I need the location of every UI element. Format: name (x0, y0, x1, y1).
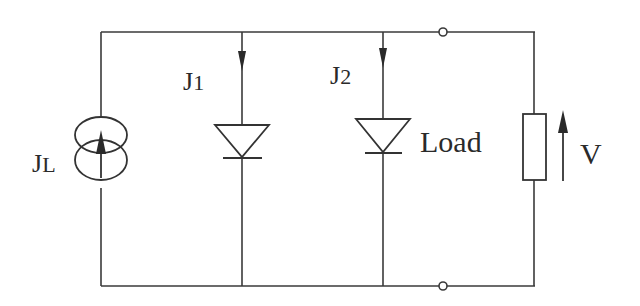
label-j1: J1 (183, 67, 204, 96)
voltage-indicator (558, 110, 568, 181)
diode2-triangle (356, 119, 410, 152)
terminal-top (439, 28, 447, 36)
label-j2: J2 (330, 61, 351, 90)
circuit-diagram: JL J1 J2 Load V (0, 0, 640, 306)
label-load: Load (420, 125, 482, 158)
source-arrow-up-icon (96, 130, 106, 154)
label-v: V (580, 137, 602, 170)
wires (101, 32, 535, 286)
load-resistor (523, 114, 546, 180)
voltage-arrow-up-icon (558, 110, 568, 133)
j2-current-arrow-down-icon (379, 48, 387, 68)
diode-1 (215, 125, 269, 158)
terminal-bottom (439, 282, 447, 290)
diode1-triangle (215, 125, 269, 157)
label-jl: JL (32, 149, 56, 178)
j1-current-arrow-down-icon (238, 51, 246, 71)
diode-2 (356, 119, 410, 153)
current-source (75, 117, 127, 180)
